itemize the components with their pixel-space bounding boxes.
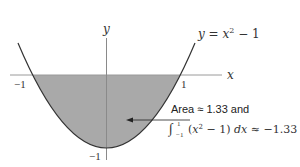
annotation-line1: Area ≈ 1.33 and [171, 103, 249, 115]
svg-text:(x2 − 1) dx ≈ −1.33: (x2 − 1) dx ≈ −1.33 [188, 123, 297, 136]
svg-text:∫: ∫ [168, 121, 174, 137]
x-tick-neg1: −1 [14, 78, 26, 90]
y-axis-label: y [102, 22, 110, 36]
function-label: y = x2 − 1 [197, 26, 260, 41]
x-axis-label: x [227, 68, 234, 82]
annotation-line2: ∫ 1 −1 (x2 − 1) dx ≈ −1.33 [168, 120, 297, 139]
svg-text:1: 1 [177, 120, 181, 128]
y-tick-neg1: −1 [89, 150, 101, 162]
parabola-area-diagram: y x −1 1 −1 y = x2 − 1 Area ≈ 1.33 and ∫… [0, 0, 300, 167]
svg-text:−1: −1 [176, 131, 184, 139]
x-tick-1: 1 [181, 78, 187, 90]
